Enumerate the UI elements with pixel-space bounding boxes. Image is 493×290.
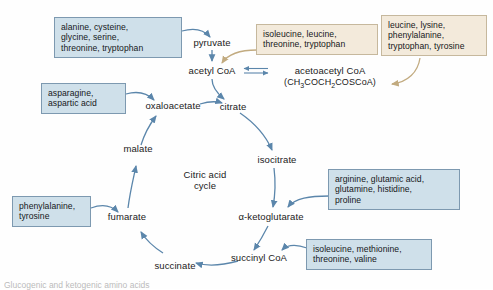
- box-line: asparagine,: [48, 88, 119, 98]
- box-line: phenylalanine,: [19, 201, 84, 211]
- box-line: glutamine, histidine,: [335, 184, 453, 194]
- box-line: arginine, glutamic acid,: [335, 174, 453, 184]
- center-label-line1: Citric acid: [184, 169, 227, 180]
- node-pyruvate: pyruvate: [193, 37, 230, 48]
- box-line: tyrosine: [19, 211, 84, 221]
- box-line: proline: [335, 195, 453, 205]
- node-succinyl-coa: succinyl CoA: [231, 252, 287, 263]
- center-label-line2: cycle: [184, 180, 227, 191]
- node-alpha-ketoglutarate: α-ketoglutarate: [238, 211, 303, 222]
- arrow-aa-to-ketoglutarate: [288, 196, 329, 207]
- arrow-aa-to-succinylcoa: [282, 245, 307, 250]
- box-line: isoleucine, leucine,: [263, 29, 371, 39]
- box-fumarate-precursors: phenylalanine, tyrosine: [12, 196, 91, 227]
- box-acetyl-coa-precursors: isoleucine, leucine, threonine, tryptoph…: [256, 24, 378, 55]
- box-pyruvate-precursors: alanine, cysteine, glycine, serine, thre…: [54, 17, 182, 58]
- arrow-ketoglutarate-to-succinylcoa: [254, 226, 268, 250]
- box-acetoacetyl-coa-precursors: leucine, lysine, phenylalanine, tryptoph…: [381, 15, 487, 56]
- box-line: isoleucine, methionine,: [313, 244, 425, 254]
- box-line: aspartic acid: [48, 98, 119, 108]
- node-acetoacetyl-coa: acetoacetyl CoA: [295, 65, 366, 76]
- node-citrate: citrate: [220, 101, 247, 112]
- node-fumarate: fumarate: [108, 211, 146, 222]
- node-acetyl-coa: acetyl CoA: [189, 65, 236, 76]
- box-line: phenylalanine,: [388, 30, 480, 40]
- arrow-oxaloacetate-to-citrate: [200, 102, 222, 104]
- box-line: alanine, cysteine,: [61, 22, 175, 32]
- figure-caption: Glucogenic and ketogenic amino acids: [4, 280, 150, 290]
- node-acetoacetyl-coa-formula: (CH3COCH2COSCoA): [284, 77, 376, 89]
- arrow-fumarate-to-malate: [128, 166, 136, 208]
- arrow-succinate-to-fumarate: [141, 232, 163, 253]
- box-succinyl-coa-precursors: isoleucine, methionine, threonine, valin…: [306, 239, 432, 270]
- box-line: threonine, valine: [313, 254, 425, 264]
- arrow-aacream-to-acetylcoa: [222, 50, 257, 63]
- box-oxaloacetate-precursors: asparagine, aspartic acid: [41, 83, 126, 114]
- box-line: threonine, tryptophan: [61, 43, 175, 53]
- arrow-malate-to-oxaloacetate: [141, 116, 156, 145]
- box-line: tryptophan, tyrosine: [388, 41, 480, 51]
- arrow-isocitrate-to-ketoglutarate: [273, 168, 275, 207]
- box-line: leucine, lysine,: [388, 20, 480, 30]
- box-line: threonine, tryptophan: [263, 39, 371, 49]
- node-succinate: succinate: [154, 260, 195, 271]
- box-alpha-ketoglutarate-precursors: arginine, glutamic acid, glutamine, hist…: [328, 169, 460, 210]
- node-isocitrate: isocitrate: [257, 154, 296, 165]
- node-oxaloacetate: oxaloacetate: [145, 100, 200, 111]
- arrow-aacream-to-acetoacetylcoa: [392, 58, 420, 84]
- arrow-acetylcoa-to-citrate: [212, 79, 224, 99]
- box-line: glycine, serine,: [61, 32, 175, 42]
- node-malate: malate: [123, 143, 152, 154]
- center-cycle-label: Citric acid cycle: [184, 169, 227, 191]
- arrow-citrate-to-isocitrate: [240, 113, 272, 150]
